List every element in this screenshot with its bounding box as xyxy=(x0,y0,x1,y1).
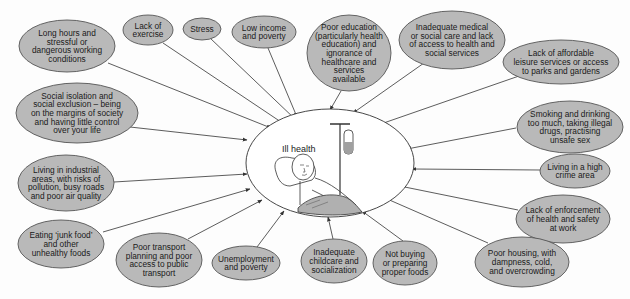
arrow-poor-housing xyxy=(378,195,488,243)
bubble-text-line: exercise xyxy=(133,29,164,39)
factor-bubble-low-income: Low incomeand poverty xyxy=(232,16,296,48)
arrow-junk-food xyxy=(103,189,250,232)
factor-bubble-proper-foods: Not buyingor preparingproper foods xyxy=(373,241,437,285)
bubble-text-line: available xyxy=(333,74,366,84)
factor-bubble-poor-housing: Poor housing, withdampness, cold,and ove… xyxy=(475,237,569,287)
arrow-social-isolation xyxy=(130,127,247,140)
bubble-text-line: unsafe sex xyxy=(550,135,591,145)
factor-bubble-stress: Stress xyxy=(183,18,221,40)
factor-bubble-smoking-drinking: Smoking and drinkingtoo much, taking ill… xyxy=(517,101,623,153)
factor-bubble-high-crime: Living in a highcrime area xyxy=(540,154,610,188)
bubble-text-line: over your life xyxy=(53,125,101,135)
bubble-text-line: and overcrowding xyxy=(489,266,555,276)
ill-health-factors-diagram: Ill health Long hours andstressfu xyxy=(0,0,630,299)
arrow-lack-of-exercise xyxy=(163,43,284,124)
factor-bubble-health-safety: Lack of enforcementof health and safetya… xyxy=(516,195,610,243)
arrow-high-crime xyxy=(412,169,540,170)
bubble-text-line: at work xyxy=(550,223,578,233)
bubble-text-line: unhealthy foods xyxy=(32,248,91,258)
bubble-text-line: and poverty xyxy=(242,31,286,41)
factor-bubble-leisure-services: Lack of affordableleisure services or ac… xyxy=(503,40,619,84)
factor-bubble-inadequate-medical: Inadequate medicalor social care and lac… xyxy=(399,11,505,69)
bubble-text-line: conditions xyxy=(48,54,85,64)
bubble-text-line: to parks and gardens xyxy=(522,66,600,76)
bubble-text-line: proper foods xyxy=(382,267,429,277)
arrow-stress xyxy=(210,38,296,120)
arrow-unemployment xyxy=(257,211,284,247)
factor-bubble-long-hours: Long hours andstressful ordangerous work… xyxy=(19,20,115,72)
bubble-text-line: and poor air quality xyxy=(31,191,102,201)
factor-bubble-unemployment: Unemploymentand poverty xyxy=(212,246,280,280)
arrow-poor-transport xyxy=(188,200,262,239)
bubble-text-line: crime area xyxy=(555,170,595,180)
ill-health-center: Ill health xyxy=(246,109,414,217)
factor-bubble-industrial-areas: Living in industrialareas, with risks of… xyxy=(18,155,114,211)
arrow-poor-education xyxy=(330,91,341,110)
arrow-childcare xyxy=(328,217,333,239)
arrow-leisure-services xyxy=(375,76,519,126)
factor-bubble-poor-transport: Poor transportplanning and pooraccess to… xyxy=(116,233,202,287)
factor-bubble-social-isolation: Social isolation andsocial exclusion – b… xyxy=(16,83,138,143)
bubble-text-line: and poverty xyxy=(224,262,268,272)
factor-bubble-childcare: Inadequatechildcare andsocialization xyxy=(301,239,367,283)
bubble-text-line: transport xyxy=(143,268,176,278)
factor-bubble-poor-education: Poor education(particularly healtheducat… xyxy=(307,15,391,91)
factor-bubble-junk-food: Eating ‘junk food’and otherunhealthy foo… xyxy=(18,220,104,268)
bubble-text-line: social services xyxy=(425,48,479,58)
arrow-industrial-areas xyxy=(114,174,247,182)
arrow-smoking-drinking xyxy=(407,128,516,149)
diagram-canvas: Ill health Long hours andstressfu xyxy=(0,0,630,299)
factor-bubble-lack-of-exercise: Lack ofexercise xyxy=(123,15,173,45)
arrow-proper-foods xyxy=(362,211,403,241)
bubble-text-line: Stress xyxy=(190,24,214,34)
bubble-text-line: socialization xyxy=(311,265,357,275)
center-label: Ill health xyxy=(282,144,316,154)
